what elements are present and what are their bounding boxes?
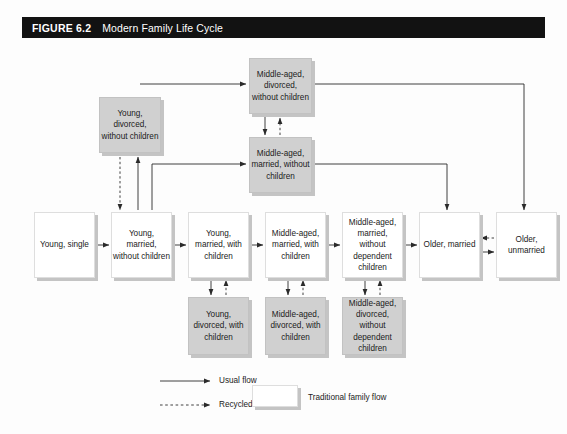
node-young-single[interactable]: Young, single: [34, 212, 95, 278]
node-middle-aged-married-without-dependent-children[interactable]: Middle-aged, married, without dependent …: [342, 212, 403, 278]
node-label: Middle-aged, married, without dependent …: [344, 217, 401, 273]
node-label: Middle-aged, divorced, without dependent…: [344, 298, 401, 354]
node-label: Young, married, with children: [190, 228, 247, 262]
figure-container: FIGURE 6.2 Modern Family Life Cycle: [0, 0, 567, 434]
node-middle-aged-married-with-children[interactable]: Middle-aged, married, with children: [265, 212, 326, 278]
node-label: Young, single: [36, 239, 93, 250]
node-label: Middle-aged, divorced, with children: [267, 309, 324, 343]
node-middle-aged-married-without-children[interactable]: Middle-aged, married, without children: [249, 137, 312, 193]
legend-label-traditional-family-flow: Traditional family flow: [308, 393, 386, 402]
node-label: Older, unmarried: [498, 234, 555, 256]
node-label: Young, married, without children: [113, 228, 170, 262]
node-young-married-with-children[interactable]: Young, married, with children: [188, 212, 249, 278]
legend-swatch-traditional-family-flow: [252, 385, 298, 407]
node-label: Young, divorced, with children: [190, 309, 247, 343]
node-older-unmarried[interactable]: Older, unmarried: [496, 212, 557, 278]
node-young-divorced-with-children[interactable]: Young, divorced, with children: [188, 297, 249, 355]
node-label: Middle-aged, divorced, without children: [251, 69, 310, 103]
node-older-married[interactable]: Older, married: [419, 212, 480, 278]
node-label: Middle-aged, married, without children: [251, 148, 310, 182]
node-young-married-without-children[interactable]: Young, married, without children: [111, 212, 172, 278]
node-middle-aged-divorced-without-dependent-children[interactable]: Middle-aged, divorced, without dependent…: [342, 297, 403, 355]
node-label: Young, divorced, without children: [101, 108, 159, 142]
node-middle-aged-divorced-with-children[interactable]: Middle-aged, divorced, with children: [265, 297, 326, 355]
node-young-divorced-without-children[interactable]: Young, divorced, without children: [99, 97, 161, 153]
node-middle-aged-divorced-without-children[interactable]: Middle-aged, divorced, without children: [249, 58, 312, 114]
legend-label-usual-flow: Usual flow: [219, 376, 257, 385]
node-label: Older, married: [421, 239, 478, 250]
node-label: Middle-aged, married, with children: [267, 228, 324, 262]
